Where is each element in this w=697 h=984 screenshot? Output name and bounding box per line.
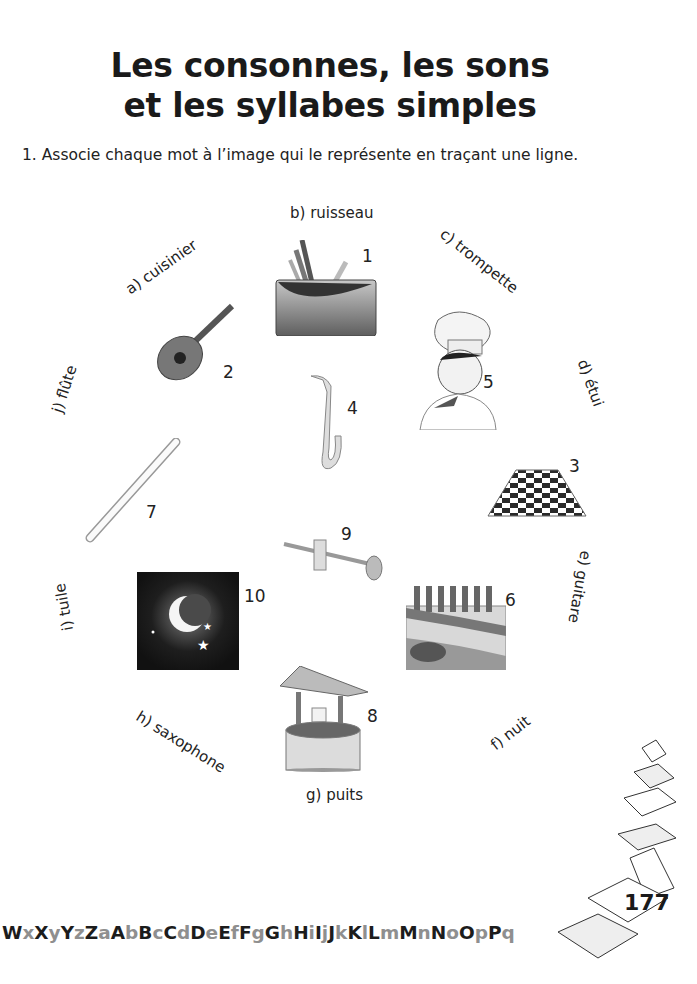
word-label-h[interactable]: h) saxophone: [133, 707, 229, 776]
saxophone-icon: [303, 372, 349, 478]
alphabet-letter: m: [380, 922, 399, 943]
picture-trumpet[interactable]: [280, 532, 384, 584]
alphabet-letter: I: [315, 922, 322, 943]
alphabet-letter: a: [98, 922, 110, 943]
alphabet-letter: P: [488, 922, 502, 943]
picture-number-9: 9: [341, 524, 352, 544]
alphabet-letter: W: [2, 922, 22, 943]
picture-well[interactable]: [278, 666, 370, 772]
picture-number-8: 8: [367, 706, 378, 726]
page-title-line-2: et les syllabes simples: [0, 86, 660, 126]
alphabet-letter: D: [190, 922, 205, 943]
trumpet-icon: [280, 532, 384, 584]
alphabet-letter: z: [74, 922, 85, 943]
alphabet-letter: o: [446, 922, 459, 943]
alphabet-letter: b: [125, 922, 138, 943]
alphabet-strip-horizontal: WxXyYzZaAbBcCdDeEfFgGhHiIjJkKlLmMnNoOpPq: [2, 922, 515, 943]
alphabet-letter: O: [459, 922, 475, 943]
alphabet-letter: K: [347, 922, 361, 943]
svg-text:★: ★: [197, 637, 210, 653]
alphabet-letter: g: [252, 922, 265, 943]
picture-number-1: 1: [362, 246, 373, 266]
books-icon: [558, 738, 697, 960]
alphabet-letter: B: [138, 922, 152, 943]
chef-icon: [418, 310, 498, 430]
word-label-d[interactable]: d) étui: [574, 357, 608, 409]
alphabet-letter: M: [399, 922, 417, 943]
alphabet-letter: G: [265, 922, 280, 943]
picture-stream[interactable]: [406, 586, 506, 670]
picture-number-3: 3: [569, 456, 580, 476]
alphabet-letter: p: [475, 922, 488, 943]
alphabet-letter: x: [22, 922, 34, 943]
picture-recorder[interactable]: [84, 438, 184, 544]
alphabet-letter: C: [163, 922, 177, 943]
alphabet-letter: N: [431, 922, 446, 943]
picture-chef[interactable]: [418, 310, 498, 430]
picture-number-10: 10: [244, 586, 266, 606]
picture-number-4: 4: [347, 398, 358, 418]
alphabet-letter: f: [231, 922, 239, 943]
word-label-i[interactable]: i) tuile: [51, 582, 77, 632]
picture-number-6: 6: [505, 590, 516, 610]
night-moon-icon: ★ ★: [137, 572, 239, 670]
alphabet-letter: y: [49, 922, 61, 943]
word-label-f[interactable]: f) nuit: [487, 712, 534, 754]
alphabet-letter: A: [111, 922, 125, 943]
alphabet-letter: L: [368, 922, 380, 943]
word-label-e[interactable]: e) guitare: [564, 549, 594, 624]
picture-number-7: 7: [146, 502, 157, 522]
well-icon: [278, 666, 370, 772]
alphabet-letter: F: [239, 922, 252, 943]
alphabet-strip-vertical: YzZ aAbBcCdDeEfFgGhHiIjJkKlLmMnNoOpPqQrR…: [663, 0, 697, 740]
alphabet-letter: H: [293, 922, 308, 943]
word-label-g[interactable]: g) puits: [306, 786, 363, 804]
alphabet-letter: n: [418, 922, 431, 943]
alphabet-letter: h: [280, 922, 293, 943]
alphabet-letter: X: [34, 922, 48, 943]
alphabet-letter: Y: [61, 922, 74, 943]
recorder-icon: [84, 438, 184, 544]
exercise-instruction: 1. Associe chaque mot à l’image qui le r…: [22, 146, 578, 164]
page-title-line-1: Les consonnes, les sons: [0, 46, 660, 86]
alphabet-letter: d: [177, 922, 190, 943]
svg-text:★: ★: [203, 621, 212, 632]
book-stack-illustration: [558, 738, 697, 960]
picture-number-5: 5: [483, 372, 494, 392]
word-label-a[interactable]: a) cuisinier: [122, 236, 200, 298]
word-label-c[interactable]: c) trompette: [436, 225, 521, 297]
picture-night[interactable]: ★ ★: [137, 572, 239, 670]
picture-saxophone[interactable]: [303, 372, 349, 478]
alphabet-letter: k: [335, 922, 347, 943]
alphabet-letter: E: [218, 922, 231, 943]
page-number: 177: [624, 890, 670, 915]
word-label-b[interactable]: b) ruisseau: [290, 204, 374, 222]
picture-number-2: 2: [223, 362, 234, 382]
alphabet-letter: Z: [85, 922, 98, 943]
stream-icon: [406, 586, 506, 670]
alphabet-letter: c: [152, 922, 163, 943]
alphabet-letter: e: [206, 922, 219, 943]
word-label-j[interactable]: j) flûte: [48, 363, 80, 415]
alphabet-letter: q: [502, 922, 515, 943]
